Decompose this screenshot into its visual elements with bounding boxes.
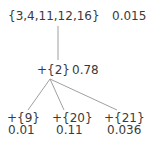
child-node-value: 0.01 [8,124,35,137]
mid-node-value: 0.78 [72,64,99,77]
root-node-value: 0.015 [112,10,146,23]
child-node-value: 0.11 [56,124,83,137]
root-node-label: {3,4,11,12,16} [8,10,100,23]
mid-node-label: +{2} [37,64,70,77]
edge-mid-child-1 [28,79,50,110]
child-node-value: 0.036 [107,124,141,137]
edge-mid-child-3 [50,79,117,110]
edge-mid-child-2 [50,79,64,110]
